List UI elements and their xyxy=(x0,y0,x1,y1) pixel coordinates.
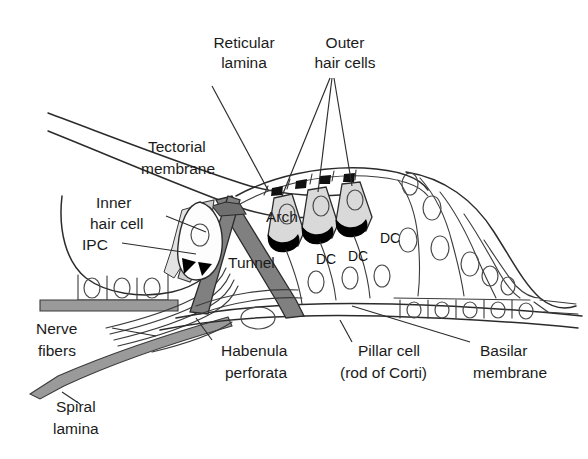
label-inner-hair-cell-line1: Inner xyxy=(96,194,131,211)
leader-ohc-2 xyxy=(318,78,332,192)
label-habenula-perforata: Habenula perforata xyxy=(221,342,288,381)
label-arch: Arch xyxy=(266,208,298,225)
label-basilar-membrane-line1: Basilar xyxy=(480,342,527,359)
reticular-lamina-shape xyxy=(236,168,428,204)
leader-pillar-cell xyxy=(340,320,352,342)
label-reticular-lamina-line2: lamina xyxy=(221,54,267,71)
label-dc-mid: DC xyxy=(348,248,368,264)
diagram-canvas: Reticular lamina Outer hair cells Tector… xyxy=(0,0,588,459)
label-habenula-perforata-line1: Habenula xyxy=(221,342,288,359)
label-pillar-cell-line1: Pillar cell xyxy=(358,342,420,359)
label-spiral-lamina-line1: Spiral xyxy=(56,398,96,415)
leader-ohc-3 xyxy=(334,78,352,186)
label-nerve-fibers-line1: Nerve xyxy=(36,320,77,337)
label-tectorial-membrane: Tectorial membrane xyxy=(141,138,215,177)
label-reticular-lamina-line1: Reticular xyxy=(213,34,274,51)
label-ipc: IPC xyxy=(82,236,108,253)
leader-basilar-membrane xyxy=(352,306,470,342)
deiters-cells xyxy=(286,236,390,304)
label-outer-hair-cells-line1: Outer xyxy=(326,34,365,51)
label-nerve-fibers-line2: fibers xyxy=(38,342,76,359)
label-outer-hair-cells: Outer hair cells xyxy=(314,34,375,71)
label-basilar-membrane-line2: membrane xyxy=(473,364,547,381)
label-tectorial-membrane-line1: Tectorial xyxy=(148,138,206,155)
label-spiral-lamina-line2: lamina xyxy=(53,420,99,437)
label-dc-left: DC xyxy=(316,251,336,267)
label-pillar-cell-line2: (rod of Corti) xyxy=(340,364,427,381)
label-outer-hair-cells-line2: hair cells xyxy=(314,54,375,71)
label-spiral-lamina: Spiral lamina xyxy=(53,398,99,437)
label-pillar-cell: Pillar cell (rod of Corti) xyxy=(340,342,427,381)
organ-of-corti-diagram: Reticular lamina Outer hair cells Tector… xyxy=(0,0,588,459)
label-inner-hair-cell: Inner hair cell xyxy=(90,194,143,232)
label-tectorial-membrane-line2: membrane xyxy=(141,160,215,177)
label-nerve-fibers: Nerve fibers xyxy=(36,320,77,359)
label-dc-right: DC xyxy=(380,230,400,246)
label-basilar-membrane: Basilar membrane xyxy=(473,342,547,381)
leader-reticular-lamina xyxy=(212,86,268,190)
label-inner-hair-cell-line2: hair cell xyxy=(90,215,143,232)
label-reticular-lamina: Reticular lamina xyxy=(213,34,274,71)
outer-hair-cell-3 xyxy=(336,182,372,237)
hensen-claudius-cells xyxy=(394,172,578,319)
label-tunnel: Tunnel xyxy=(228,254,275,271)
label-habenula-perforata-line2: perforata xyxy=(225,364,287,381)
